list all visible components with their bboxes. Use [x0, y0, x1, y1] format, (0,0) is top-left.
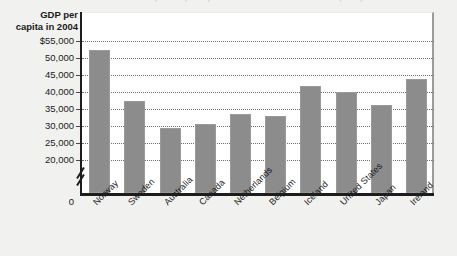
- y-axis-zero-label: 0: [40, 196, 74, 207]
- bar-netherlands: [230, 114, 251, 193]
- x-axis-line: [80, 193, 434, 196]
- y-axis-tick-label: 25,000: [4, 138, 74, 148]
- bar-sweden: [124, 101, 145, 194]
- y-axis-title-line-1: GDP per: [6, 9, 78, 21]
- y-axis-tick-label: 45,000: [4, 70, 74, 80]
- y-axis-title-line-2: capita in 2004: [6, 21, 78, 33]
- y-axis-tick-label: 40,000: [4, 87, 74, 97]
- y-axis-tick-label: 20,000: [4, 155, 74, 165]
- y-axis-tick-label: 35,000: [4, 104, 74, 114]
- bar-norway: [89, 50, 110, 194]
- y-axis-title: GDP per capita in 2004: [6, 9, 78, 32]
- bar-iceland: [300, 86, 321, 193]
- y-axis-tick-label: 50,000: [4, 53, 74, 63]
- gridline: [82, 58, 434, 59]
- gridline: [82, 41, 434, 42]
- y-axis-tick-label: $55,000: [4, 36, 74, 46]
- bar-belgium: [265, 116, 286, 193]
- clipped-chart-title: Gross domestic product per capita for th…: [96, 0, 426, 2]
- bar-japan: [371, 105, 392, 193]
- bar-united-states: [336, 92, 357, 193]
- gridline: [82, 75, 434, 76]
- chart-figure: Gross domestic product per capita for th…: [0, 0, 457, 256]
- bar-ireland: [406, 79, 427, 193]
- y-axis-tick-label: 30,000: [4, 121, 74, 131]
- axis-break-icon: [72, 166, 90, 188]
- gridline: [82, 92, 434, 93]
